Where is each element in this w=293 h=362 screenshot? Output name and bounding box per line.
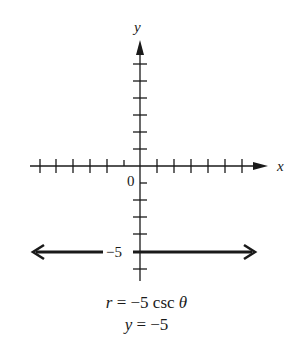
equation-rect: y = −5 <box>0 315 293 335</box>
polar-rest: = −5 csc <box>112 293 178 312</box>
rect-rest: = −5 <box>132 315 168 334</box>
line-y-neg5 <box>33 245 255 259</box>
line-value-label: −5 <box>106 244 122 260</box>
equation-polar: r = −5 csc θ <box>0 293 293 313</box>
y-axis-arrow-icon <box>136 40 144 55</box>
origin-label: 0 <box>127 173 135 189</box>
theta-var: θ <box>179 293 187 312</box>
y-axis-label: y <box>132 19 141 35</box>
x-axis-label: x <box>276 158 284 174</box>
x-axis-arrow-icon <box>253 162 268 170</box>
